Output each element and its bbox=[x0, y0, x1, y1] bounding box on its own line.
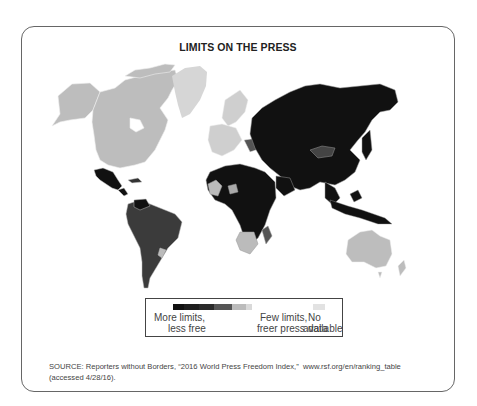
legend-swatch-3 bbox=[199, 304, 214, 310]
legend-label-few-limits: Few limits, bbox=[260, 312, 307, 323]
legend-nodata-swatch bbox=[313, 304, 325, 310]
legend-swatch-6 bbox=[246, 304, 252, 310]
south-america bbox=[126, 199, 182, 288]
legend-swatch-4 bbox=[214, 304, 232, 310]
north-america bbox=[52, 64, 178, 168]
greenland bbox=[172, 66, 207, 118]
legend-label-freer-press: freer press bbox=[257, 323, 305, 334]
legend-swatch-1 bbox=[173, 304, 184, 310]
map-legend: More limits, less free Few limits, freer… bbox=[145, 298, 343, 337]
legend-swatch-5 bbox=[232, 304, 246, 310]
legend-color-ramp bbox=[173, 304, 252, 310]
africa bbox=[206, 164, 295, 254]
legend-label-available: available bbox=[303, 323, 342, 334]
legend-label-less-free: less free bbox=[168, 323, 206, 334]
world-map bbox=[0, 0, 477, 406]
source-note: SOURCE: Reporters without Borders, “2016… bbox=[49, 361, 401, 383]
source-line-1: SOURCE: Reporters without Borders, “2016… bbox=[49, 362, 401, 371]
source-line-2: (accessed 4/28/16). bbox=[49, 373, 116, 382]
oceania bbox=[346, 230, 406, 278]
central-america bbox=[94, 168, 142, 196]
legend-swatch-2 bbox=[184, 304, 199, 310]
southeast-asia bbox=[330, 190, 392, 224]
legend-label-more-limits: More limits, bbox=[154, 312, 205, 323]
